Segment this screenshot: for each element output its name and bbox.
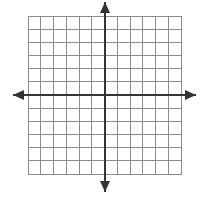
coordinate-grid-canvas [0, 0, 202, 197]
coordinate-grid-figure: Blank Cartesian coordinate grid with arr… [0, 0, 202, 197]
